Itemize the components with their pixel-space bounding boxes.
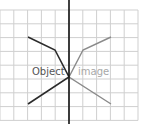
image-label: image	[78, 66, 109, 77]
reflection-diagram: Object image	[0, 0, 144, 124]
object-label: Object	[32, 66, 65, 77]
